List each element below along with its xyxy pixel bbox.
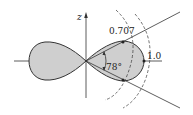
half-power-point-lower [122,79,125,82]
right-lobe [86,41,144,81]
half-power-point-upper [122,41,125,44]
half-power-label: 0.707 [109,27,135,36]
z-axis-label: z [77,13,82,22]
radiation-pattern-diagram [0,0,193,115]
left-lobe [29,42,86,80]
beam-angle-label: 78° [106,63,122,72]
z-axis-arrow-icon [84,12,88,18]
max-point [143,60,146,63]
max-value-label: 1.0 [147,52,161,61]
